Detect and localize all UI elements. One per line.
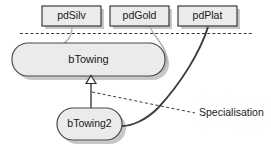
diagram-canvas: bTowing pdSilv pdGold pdPlat bTowing2	[0, 0, 271, 147]
generalisation-btowing2-btowing	[86, 76, 96, 109]
box-node-pdplat[interactable]: pdPlat	[178, 6, 237, 26]
class-node-btowing2[interactable]: bTowing2	[57, 108, 122, 140]
annotation-specialisation: Specialisation	[199, 106, 264, 118]
box-node-pdsilv-label: pdSilv	[57, 9, 86, 21]
class-node-btowing[interactable]: bTowing	[12, 43, 165, 76]
class-node-btowing2-label: bTowing2	[67, 117, 112, 129]
box-node-pdsilv[interactable]: pdSilv	[42, 6, 101, 26]
box-node-pdgold-label: pdGold	[123, 9, 157, 21]
class-node-btowing-label: bTowing	[68, 53, 108, 65]
diagram-svg: bTowing pdSilv pdGold pdPlat bTowing2	[0, 0, 271, 147]
box-node-pdgold[interactable]: pdGold	[110, 6, 169, 26]
box-node-pdplat-label: pdPlat	[193, 9, 223, 21]
